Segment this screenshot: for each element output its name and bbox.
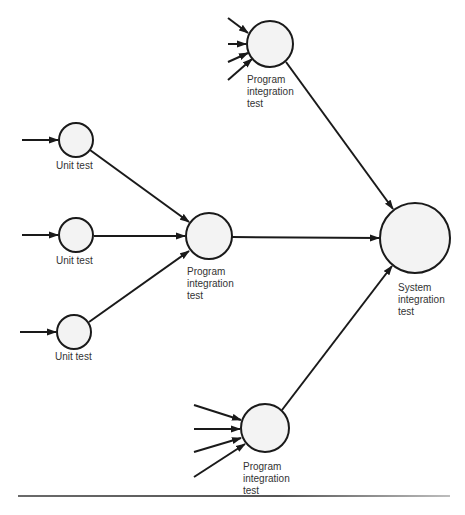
label-program-integration-bot: Program integration test <box>243 461 290 497</box>
label-program-integration-top: Program integration test <box>247 74 294 110</box>
input-arrow-bot-1 <box>194 405 241 420</box>
label-unit-test-2: Unit test <box>56 255 93 267</box>
node-program-integration-mid <box>186 213 232 259</box>
label-system-integration: System integration test <box>398 282 445 318</box>
edge-unit3-to-program-mid <box>89 251 189 322</box>
edge-program-bot-to-system <box>282 266 392 410</box>
node-unit-test-1 <box>59 123 93 157</box>
node-program-integration-top <box>247 21 293 67</box>
node-program-integration-bot <box>241 404 289 452</box>
node-unit-test-3 <box>57 315 91 349</box>
edge-unit1-to-program-mid <box>90 150 189 222</box>
node-system-integration <box>380 203 450 273</box>
node-unit-test-2 <box>59 218 93 252</box>
input-arrow-top-3 <box>228 53 248 62</box>
edge-program-mid-to-system <box>232 237 379 238</box>
input-arrow-bot-3 <box>194 438 241 452</box>
edge-program-top-to-system <box>286 62 393 209</box>
bottom-divider <box>18 495 450 497</box>
label-unit-test-1: Unit test <box>56 160 93 172</box>
label-program-integration-mid: Program integration test <box>187 266 234 302</box>
input-arrow-top-1 <box>228 18 248 33</box>
label-unit-test-3: Unit test <box>55 351 92 363</box>
